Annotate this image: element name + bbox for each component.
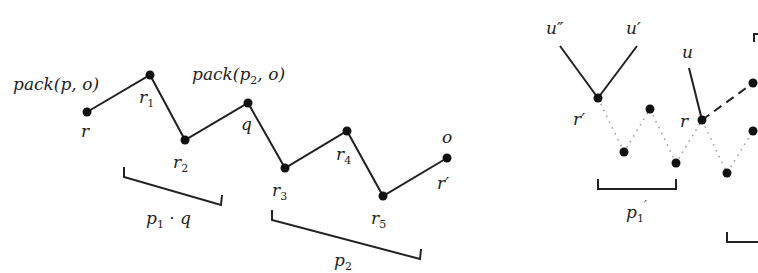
label-u: u	[682, 42, 693, 62]
bracket-p2	[272, 210, 421, 259]
label-r: r	[81, 121, 90, 141]
label-pack-p2-o: pack(p2, o)	[192, 64, 285, 87]
label-r4: r4	[336, 144, 351, 167]
diagram: pack(p, o) pack(p2, o) r r1 r2 q r3 r4 r…	[0, 0, 758, 273]
label-pack-p-o: pack(p, o)	[13, 74, 99, 94]
label-p1-prime: p1′	[626, 199, 647, 225]
label-p2: p2	[334, 250, 352, 273]
label-r5: r5	[371, 208, 386, 231]
label-o: o	[442, 127, 452, 147]
right-diagram	[560, 34, 758, 242]
label-p1-q: p1 · q	[146, 208, 191, 231]
label-r1: r1	[139, 87, 154, 110]
bracket-p1q	[124, 167, 222, 205]
label-u-double-prime: u″	[546, 18, 564, 38]
label-q: q	[241, 114, 252, 134]
label-r-prime-right: r′	[573, 109, 585, 129]
label-r2: r2	[173, 152, 188, 175]
label-r3: r3	[272, 180, 287, 203]
label-u-prime: u′	[626, 18, 641, 38]
label-r-prime: r′	[437, 173, 449, 193]
label-r-right: r	[680, 111, 689, 131]
